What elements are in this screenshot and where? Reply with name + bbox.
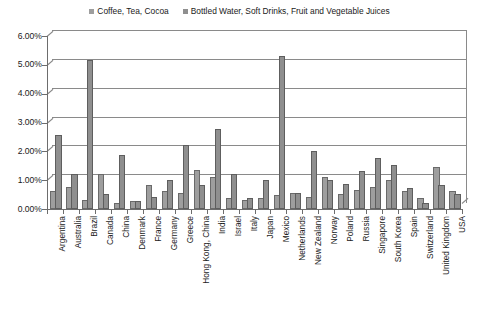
- x-axis-tick-mark: [159, 209, 160, 214]
- x-axis-tick-mark: [446, 209, 447, 214]
- legend-label-series-0: Coffee, Tea, Cocoa: [97, 6, 168, 16]
- legend-swatch-series-0: [89, 9, 94, 14]
- bar-group: [414, 36, 430, 209]
- legend-entry-coffee-tea-cocoa[interactable]: Coffee, Tea, Cocoa: [89, 6, 168, 16]
- bar[interactable]: [135, 201, 141, 209]
- bar[interactable]: [119, 155, 125, 209]
- x-axis-tick-mark: [318, 209, 319, 214]
- x-axis-tick-mark: [462, 209, 463, 214]
- bar[interactable]: [359, 171, 365, 209]
- x-axis-tick-mark: [47, 209, 48, 214]
- bar[interactable]: [167, 180, 173, 209]
- x-axis-label: Russia: [362, 216, 371, 241]
- x-axis-tick-mark: [398, 209, 399, 214]
- x-axis-label: Italy: [250, 216, 259, 231]
- bar[interactable]: [407, 188, 413, 209]
- bar[interactable]: [311, 151, 317, 209]
- x-axis-label: China: [122, 216, 131, 238]
- bar[interactable]: [183, 145, 189, 209]
- bar-group: [159, 36, 175, 209]
- bar-group: [350, 36, 366, 209]
- bar[interactable]: [151, 197, 157, 209]
- chart-legend: Coffee, Tea, Cocoa Bottled Water, Soft D…: [0, 6, 479, 16]
- bar-group: [47, 36, 63, 209]
- x-axis-tick-mark: [430, 209, 431, 214]
- bar[interactable]: [343, 184, 349, 209]
- bar-group: [302, 36, 318, 209]
- bar[interactable]: [231, 174, 237, 209]
- x-axis-tick-mark: [207, 209, 208, 214]
- x-axis-tick-marks: [47, 209, 467, 215]
- x-axis-label: Norway: [330, 216, 339, 244]
- bar[interactable]: [295, 193, 301, 209]
- bar-group: [318, 36, 334, 209]
- bar-group: [127, 36, 143, 209]
- legend-swatch-series-1: [183, 9, 188, 14]
- x-axis-label: New Zealand: [314, 216, 323, 265]
- bar-group: [63, 36, 79, 209]
- x-axis-category-labels: ArgentinaAustraliaBrazilCanadaChinaDenma…: [47, 216, 467, 308]
- x-axis-tick-mark: [143, 209, 144, 214]
- x-axis-tick-mark: [223, 209, 224, 214]
- bar-group: [239, 36, 255, 209]
- bar[interactable]: [87, 60, 93, 209]
- bar[interactable]: [55, 135, 61, 209]
- x-axis-label: Hong Kong, China: [202, 216, 211, 284]
- bar[interactable]: [247, 198, 253, 209]
- x-axis-label: United Kingdom: [442, 216, 451, 275]
- bar[interactable]: [103, 194, 109, 209]
- x-axis-label: Canada: [106, 216, 115, 245]
- bar-group: [95, 36, 111, 209]
- x-axis-tick-mark: [334, 209, 335, 214]
- x-axis-label: Greece: [186, 216, 195, 243]
- x-axis-tick-mark: [127, 209, 128, 214]
- bar[interactable]: [71, 174, 77, 209]
- x-axis-label: Australia: [74, 216, 83, 248]
- x-axis-tick-mark: [95, 209, 96, 214]
- x-axis-tick-mark: [175, 209, 176, 214]
- bar[interactable]: [199, 185, 205, 209]
- legend-entry-bottled-water-soft-drinks-juices[interactable]: Bottled Water, Soft Drinks, Fruit and Ve…: [183, 6, 390, 16]
- bar-group: [223, 36, 239, 209]
- bar[interactable]: [263, 180, 269, 209]
- bar[interactable]: [327, 180, 333, 209]
- bar-group: [366, 36, 382, 209]
- bar-group: [255, 36, 271, 209]
- bar-group: [111, 36, 127, 209]
- y-axis-tick-marks: [0, 30, 47, 215]
- x-axis-label: France: [154, 216, 163, 242]
- bar-group: [270, 36, 286, 209]
- plot-area: [47, 36, 462, 209]
- bar-group: [382, 36, 398, 209]
- bar-group: [79, 36, 95, 209]
- x-axis-tick-mark: [63, 209, 64, 214]
- bar[interactable]: [279, 56, 285, 209]
- bar[interactable]: [454, 194, 460, 209]
- bar-group: [446, 36, 462, 209]
- x-axis-label: Netherlands: [298, 216, 307, 261]
- legend-label-series-1: Bottled Water, Soft Drinks, Fruit and Ve…: [191, 6, 390, 16]
- bar[interactable]: [215, 129, 221, 209]
- x-axis-tick-mark: [414, 209, 415, 214]
- x-axis-label: Israel: [234, 216, 243, 236]
- x-axis-label: Brazil: [90, 216, 99, 237]
- bar[interactable]: [438, 185, 444, 209]
- x-axis-label: USA: [458, 216, 467, 233]
- bar[interactable]: [375, 158, 381, 209]
- bar[interactable]: [391, 165, 397, 209]
- plot-frame: [47, 30, 467, 209]
- x-axis-label: South Korea: [394, 216, 403, 262]
- x-axis-tick-mark: [286, 209, 287, 214]
- x-axis-label: Singapore: [378, 216, 387, 254]
- x-axis-label: Japan: [266, 216, 275, 239]
- x-axis-tick-mark: [239, 209, 240, 214]
- bar-group: [334, 36, 350, 209]
- bar-group: [175, 36, 191, 209]
- x-axis-label: India: [218, 216, 227, 234]
- x-axis-label: Argentina: [58, 216, 67, 252]
- gridline: [52, 30, 467, 31]
- x-axis-tick-mark: [366, 209, 367, 214]
- x-axis-label: Switzerland: [426, 216, 435, 259]
- bar-group: [207, 36, 223, 209]
- x-axis-tick-mark: [302, 209, 303, 214]
